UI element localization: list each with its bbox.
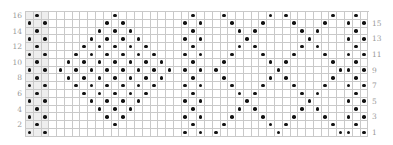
stitch-cell — [119, 35, 127, 43]
purl-dot-icon — [191, 14, 195, 18]
stitch-cell — [189, 106, 197, 114]
purl-dot-icon — [43, 53, 47, 57]
stitch-cell — [236, 74, 244, 82]
stitch-cell — [42, 113, 50, 121]
stitch-cell — [361, 82, 369, 90]
stitch-cell — [291, 51, 299, 59]
stitch-cell — [143, 51, 151, 59]
purl-dot-icon — [238, 107, 242, 111]
stitch-cell — [158, 121, 166, 129]
stitch-cell — [88, 106, 96, 114]
stitch-cell — [267, 82, 275, 90]
stitch-cell — [135, 20, 143, 28]
stitch-cell — [182, 106, 190, 114]
stitch-cell — [221, 12, 229, 20]
stitch-cell — [306, 67, 314, 75]
stitch-cell — [65, 74, 73, 82]
stitch-cell — [26, 51, 34, 59]
stitch-cell — [361, 113, 369, 121]
stitch-cell — [197, 98, 205, 106]
stitch-cell — [267, 90, 275, 98]
stitch-cell — [49, 43, 57, 51]
stitch-cell — [119, 121, 127, 129]
stitch-cell — [345, 20, 353, 28]
stitch-cell — [104, 59, 112, 67]
stitch-cell — [182, 113, 190, 121]
purl-dot-icon — [261, 115, 265, 119]
stitch-cell — [221, 121, 229, 129]
stitch-cell — [104, 74, 112, 82]
purl-dot-icon — [129, 76, 133, 80]
stitch-cell — [337, 28, 345, 36]
stitch-cell — [112, 113, 120, 121]
stitch-cell — [49, 35, 57, 43]
stitch-cell — [259, 59, 267, 67]
stitch-cell — [361, 28, 369, 36]
stitch-cell — [112, 35, 120, 43]
stitch-cell — [298, 121, 306, 129]
stitch-cell — [361, 59, 369, 67]
stitch-cell — [182, 51, 190, 59]
stitch-cell — [49, 20, 57, 28]
stitch-cell — [49, 113, 57, 121]
stitch-cell — [119, 67, 127, 75]
stitch-cell — [213, 121, 221, 129]
stitch-cell — [96, 106, 104, 114]
purl-dot-icon — [331, 76, 335, 80]
stitch-cell — [322, 20, 330, 28]
stitch-cell — [127, 121, 135, 129]
stitch-cell — [143, 106, 151, 114]
stitch-cell — [135, 121, 143, 129]
purl-dot-icon — [269, 14, 273, 18]
purl-dot-icon — [152, 84, 156, 88]
stitch-cell — [57, 106, 65, 114]
stitch-cell — [189, 20, 197, 28]
stitch-cell — [34, 59, 42, 67]
stitch-cell — [104, 82, 112, 90]
row-label: 10 — [8, 59, 22, 67]
stitch-cell — [174, 106, 182, 114]
purl-dot-icon — [191, 60, 195, 64]
stitch-cell — [112, 51, 120, 59]
stitch-cell — [135, 35, 143, 43]
purl-dot-icon — [331, 60, 335, 64]
stitch-cell — [42, 90, 50, 98]
stitch-cell — [337, 98, 345, 106]
stitch-cell — [42, 20, 50, 28]
stitch-cell — [42, 67, 50, 75]
stitch-cell — [49, 28, 57, 36]
purl-dot-icon — [35, 107, 39, 111]
stitch-cell — [337, 43, 345, 51]
stitch-cell — [26, 59, 34, 67]
stitch-cell — [57, 59, 65, 67]
stitch-cell — [306, 113, 314, 121]
purl-dot-icon — [292, 53, 296, 57]
stitch-cell — [283, 82, 291, 90]
purl-dot-icon — [168, 68, 172, 72]
stitch-cell — [189, 43, 197, 51]
stitch-cell — [88, 12, 96, 20]
stitch-cell — [275, 90, 283, 98]
stitch-cell — [65, 59, 73, 67]
stitch-cell — [127, 74, 135, 82]
stitch-cell — [329, 113, 337, 121]
row-label: 5 — [372, 98, 390, 106]
stitch-cell — [143, 43, 151, 51]
stitch-cell — [236, 129, 244, 137]
purl-dot-icon — [199, 37, 203, 41]
stitch-cell — [228, 67, 236, 75]
purl-dot-icon — [28, 21, 32, 25]
purl-dot-icon — [238, 45, 242, 49]
stitch-cell — [182, 121, 190, 129]
stitch-cell — [314, 74, 322, 82]
stitch-cell — [314, 98, 322, 106]
stitch-cell — [236, 121, 244, 129]
row-label: 12 — [8, 43, 22, 51]
stitch-cell — [182, 129, 190, 137]
purl-dot-icon — [113, 123, 117, 127]
stitch-cell — [112, 28, 120, 36]
stitch-cell — [361, 90, 369, 98]
stitch-cell — [275, 129, 283, 137]
stitch-cell — [49, 67, 57, 75]
stitch-cell — [236, 43, 244, 51]
